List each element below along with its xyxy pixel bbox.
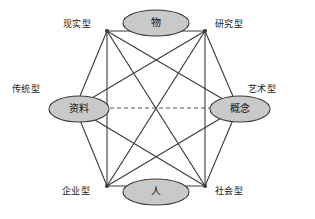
node-label-concept: 概念 [210,104,270,114]
vertex-label-conventional: 传统型 [12,85,40,94]
hexagon-diagram: 现实型研究型艺术型社会型企业型传统型 物资料概念人 [0,0,315,219]
vertex-label-investigative: 研究型 [215,20,243,29]
vertex-dot-social [203,184,207,188]
vertex-dot-realistic [105,29,109,33]
vertex-dot-investigative [203,29,207,33]
vertex-label-realistic: 现实型 [63,20,91,29]
node-label-things: 物 [123,18,189,28]
node-label-data: 资料 [49,104,109,114]
vertex-dot-enterprising [105,184,109,188]
node-label-people: 人 [123,187,189,197]
solid-edge-artistic-to-enterprising [107,108,238,186]
solid-edge-realistic-to-artistic [107,31,238,108]
vertex-label-enterprising: 企业型 [62,187,90,196]
vertex-label-artistic: 艺术型 [248,85,276,94]
vertex-label-social: 社会型 [215,187,243,196]
solid-edge-investigative-to-conventional [75,31,205,108]
